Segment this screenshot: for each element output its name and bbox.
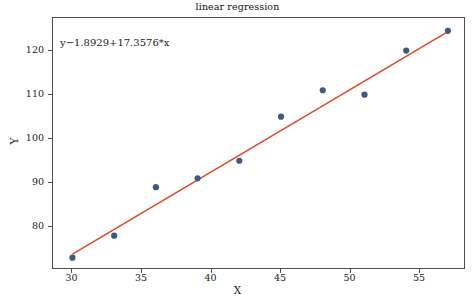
y-tick-mark [48,182,52,183]
x-tick-label: 35 [121,272,161,283]
chart-title: linear regression [0,1,475,12]
data-point [320,87,326,93]
y-tick-mark [48,94,52,95]
data-point [236,158,242,164]
regression-equation-annotation: y−1.8929+17.3576*x [60,37,169,48]
y-tick-label: 110 [8,88,44,99]
x-tick-label: 30 [51,272,91,283]
y-tick-label: 80 [8,220,44,231]
y-tick-label: 120 [8,44,44,55]
x-tick-mark [350,269,351,273]
regression-line-path [72,32,447,254]
plot-area [52,17,465,269]
x-tick-mark [419,269,420,273]
x-tick-mark [211,269,212,273]
y-tick-mark [48,50,52,51]
x-tick-label: 40 [191,272,231,283]
data-point [361,92,367,98]
data-point [403,48,409,54]
data-point [445,28,451,34]
x-tick-mark [71,269,72,273]
y-tick-mark [48,138,52,139]
x-tick-mark [141,269,142,273]
data-points-group [69,28,451,261]
data-point [278,114,284,120]
x-tick-label: 55 [399,272,439,283]
x-axis-label: X [0,284,475,296]
x-tick-label: 45 [260,272,300,283]
data-point [111,233,117,239]
data-point [195,175,201,181]
data-point [69,255,75,261]
data-point [153,184,159,190]
y-tick-mark [48,226,52,227]
plot-svg [53,18,466,270]
regression-line [72,32,447,254]
y-tick-label: 90 [8,176,44,187]
figure-canvas: linear regression y−1.8929+17.3576*x 809… [0,0,475,304]
x-tick-mark [280,269,281,273]
y-axis-label: Y [8,121,20,161]
x-tick-label: 50 [330,272,370,283]
